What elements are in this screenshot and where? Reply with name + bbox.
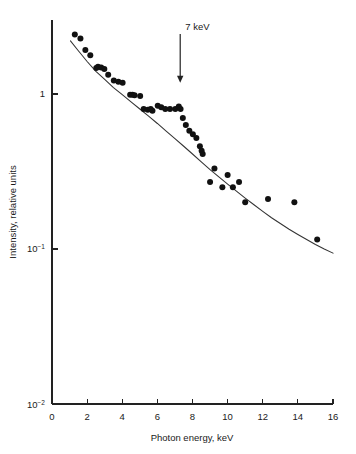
x-tick-label: 8 [190,411,195,422]
x-tick-label: 2 [84,411,89,422]
data-point [183,122,189,128]
data-point [200,151,206,157]
data-point [132,92,138,98]
data-point [291,199,297,205]
data-point [167,106,173,112]
x-tick-label: 4 [120,411,125,422]
data-point [211,166,217,172]
data-point [180,115,186,121]
data-point [149,108,155,114]
data-point [105,72,111,78]
data-points [72,31,320,242]
data-point [314,237,320,243]
data-point [230,184,236,190]
x-axis-ticks: 0246810121416 [49,399,338,422]
figure-container: 0246810121416 110−110−2 7 keV Photon ene… [0,0,356,454]
y-tick-label: 10−1 [27,243,45,255]
y-axis-title: Intensity, relative units [7,165,18,259]
x-tick-label: 16 [328,411,339,422]
x-axis-title: Photon energy, keV [151,432,234,443]
axes [52,20,333,404]
data-point [77,35,83,41]
x-tick-label: 10 [222,411,233,422]
data-point [236,179,242,185]
data-point [265,196,271,202]
y-tick-label: 10−2 [27,398,45,410]
data-point [137,93,143,99]
x-tick-label: 12 [257,411,268,422]
annotation-7kev: 7 keV [177,21,210,83]
data-point [219,184,225,190]
data-point [87,52,93,58]
data-point [101,66,107,72]
data-point [120,80,126,86]
data-point [178,106,184,112]
x-tick-label: 0 [49,411,54,422]
xray-spectrum-chart: 0246810121416 110−110−2 7 keV Photon ene… [0,0,356,454]
data-point [207,179,213,185]
annotation-arrow-head [177,76,183,83]
y-axis-ticks: 110−110−2 [27,88,58,409]
x-tick-label: 14 [293,411,304,422]
data-point [242,199,248,205]
data-point [193,135,199,141]
x-tick-label: 6 [155,411,160,422]
annotation-label: 7 keV [185,21,210,32]
y-tick-label: 1 [40,88,45,99]
data-point [225,172,231,178]
data-point [82,47,88,53]
data-point [72,31,78,37]
